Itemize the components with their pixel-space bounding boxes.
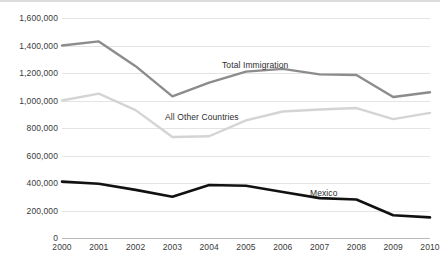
x-tick-label: 2004 [200, 242, 219, 252]
series-line-mexico [62, 182, 430, 218]
top-border-rule [0, 0, 440, 2]
x-tick-label: 2000 [52, 242, 71, 252]
series-label-all-other-countries: All Other Countries [165, 112, 239, 122]
x-tick-label: 2009 [384, 242, 403, 252]
x-tick-label: 2010 [420, 242, 439, 252]
series-layer [62, 18, 430, 238]
y-tick-label: 1,400,000 [19, 41, 58, 51]
x-axis: 2000200120022003200420052006200720082009… [62, 242, 430, 258]
series-label-total-immigration: Total Immigration [222, 60, 288, 70]
y-tick-label: 600,000 [27, 151, 58, 161]
x-tick-label: 2003 [163, 242, 182, 252]
x-tick-label: 2006 [273, 242, 292, 252]
x-tick-label: 2001 [89, 242, 108, 252]
x-tick-label: 2005 [236, 242, 255, 252]
x-tick-label: 2007 [310, 242, 329, 252]
y-axis: 0200,000400,000600,000800,0001,000,0001,… [0, 0, 58, 270]
axis-zero-line [62, 238, 430, 239]
y-tick-label: 1,000,000 [19, 96, 58, 106]
y-tick-label: 1,200,000 [19, 68, 58, 78]
y-tick-label: 400,000 [27, 178, 58, 188]
immigration-line-chart: 0200,000400,000600,000800,0001,000,0001,… [0, 0, 440, 270]
series-line-all-other-countries [62, 94, 430, 137]
y-tick-label: 800,000 [27, 123, 58, 133]
x-tick-label: 2008 [347, 242, 366, 252]
x-tick-label: 2002 [126, 242, 145, 252]
series-label-mexico: Mexico [310, 188, 338, 198]
plot-area [62, 18, 430, 238]
y-tick-label: 200,000 [27, 206, 58, 216]
y-tick-label: 1,600,000 [19, 13, 58, 23]
